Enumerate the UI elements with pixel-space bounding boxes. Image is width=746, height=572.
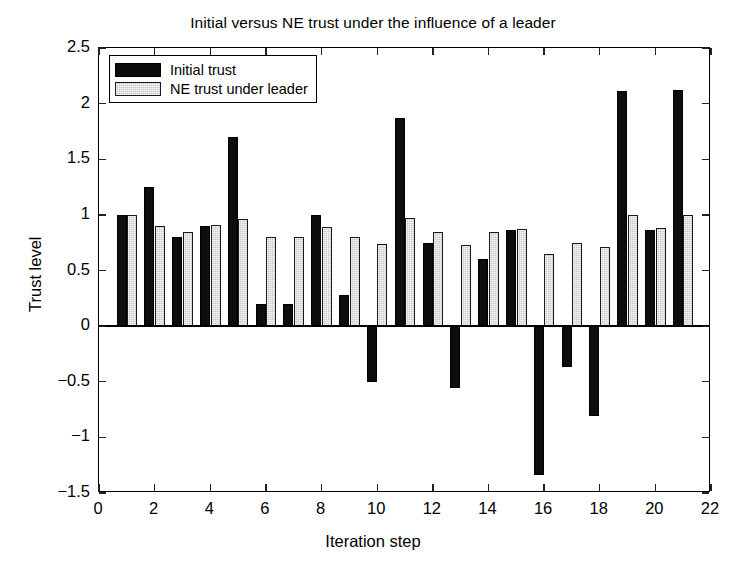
legend: Initial trust NE trust under leader bbox=[109, 55, 317, 103]
figure: Initial versus NE trust under the influe… bbox=[0, 0, 746, 572]
x-tick bbox=[543, 484, 544, 491]
bars-layer bbox=[99, 48, 709, 491]
chart-title: Initial versus NE trust under the influe… bbox=[0, 14, 746, 32]
legend-swatch-ne-trust bbox=[115, 82, 161, 96]
y-tick-label: −1 bbox=[28, 426, 90, 445]
bar-initial-trust-step-20 bbox=[645, 230, 655, 326]
bar-initial-trust-step-1 bbox=[117, 215, 127, 326]
bar-initial-trust-step-16 bbox=[534, 326, 544, 475]
bar-ne-trust-step-21 bbox=[683, 215, 693, 326]
y-tick bbox=[99, 214, 106, 215]
bar-initial-trust-step-14 bbox=[478, 259, 488, 326]
x-tick bbox=[98, 48, 99, 55]
x-tick-label: 16 bbox=[523, 499, 563, 518]
x-tick bbox=[265, 484, 266, 491]
x-tick-label: 18 bbox=[579, 499, 619, 518]
bar-initial-trust-step-6 bbox=[256, 304, 266, 326]
bar-ne-trust-step-17 bbox=[572, 243, 582, 326]
x-tick bbox=[543, 48, 544, 55]
bar-ne-trust-step-4 bbox=[211, 225, 221, 326]
bar-ne-trust-step-16 bbox=[544, 254, 554, 326]
bar-initial-trust-step-21 bbox=[673, 90, 683, 326]
y-tick-label: 1 bbox=[28, 204, 90, 223]
y-tick bbox=[99, 47, 106, 48]
x-tick-label: 8 bbox=[301, 499, 341, 518]
bar-initial-trust-step-12 bbox=[423, 243, 433, 326]
y-tick bbox=[99, 270, 106, 271]
x-tick bbox=[710, 48, 711, 55]
bar-initial-trust-step-7 bbox=[283, 304, 293, 326]
plot-area: Initial trust NE trust under leader bbox=[98, 47, 710, 492]
y-tick-label: 2 bbox=[28, 93, 90, 112]
bar-initial-trust-step-15 bbox=[506, 230, 516, 326]
x-tick-label: 22 bbox=[690, 499, 730, 518]
bar-ne-trust-step-1 bbox=[127, 215, 137, 326]
y-tick bbox=[702, 214, 709, 215]
bar-initial-trust-step-9 bbox=[339, 295, 349, 326]
bar-ne-trust-step-7 bbox=[294, 237, 304, 326]
x-tick bbox=[599, 484, 600, 491]
x-tick-label: 4 bbox=[189, 499, 229, 518]
x-axis-title: Iteration step bbox=[0, 532, 746, 551]
y-tick bbox=[99, 437, 106, 438]
x-tick bbox=[154, 48, 155, 55]
bar-initial-trust-step-4 bbox=[200, 226, 210, 326]
y-tick bbox=[702, 381, 709, 382]
y-tick bbox=[99, 159, 106, 160]
x-tick bbox=[321, 48, 322, 55]
bar-ne-trust-step-6 bbox=[266, 237, 276, 326]
bar-ne-trust-step-9 bbox=[350, 237, 360, 326]
x-tick bbox=[377, 484, 378, 491]
bar-ne-trust-step-11 bbox=[405, 218, 415, 326]
x-tick-label: 0 bbox=[78, 499, 118, 518]
y-tick bbox=[702, 47, 709, 48]
legend-label-ne-trust: NE trust under leader bbox=[170, 81, 308, 97]
x-tick bbox=[321, 484, 322, 491]
bar-ne-trust-step-3 bbox=[183, 232, 193, 327]
y-tick bbox=[99, 326, 106, 327]
legend-item: Initial trust bbox=[115, 60, 308, 79]
y-tick bbox=[702, 492, 709, 493]
y-tick bbox=[99, 381, 106, 382]
x-tick bbox=[265, 48, 266, 55]
legend-label-initial-trust: Initial trust bbox=[170, 62, 236, 78]
y-tick-label: 1.5 bbox=[28, 148, 90, 167]
x-tick-label: 2 bbox=[134, 499, 174, 518]
bar-initial-trust-step-10 bbox=[367, 326, 377, 382]
y-tick bbox=[99, 492, 106, 493]
x-tick bbox=[655, 48, 656, 55]
bar-initial-trust-step-3 bbox=[172, 237, 182, 326]
y-tick-label: 0.5 bbox=[28, 260, 90, 279]
zero-line bbox=[99, 325, 709, 326]
y-tick bbox=[702, 326, 709, 327]
bar-initial-trust-step-19 bbox=[617, 91, 627, 326]
y-tick-label: 0 bbox=[28, 315, 90, 334]
y-tick-label: −0.5 bbox=[28, 371, 90, 390]
bar-ne-trust-step-20 bbox=[656, 228, 666, 326]
x-tick-label: 14 bbox=[467, 499, 507, 518]
bar-initial-trust-step-13 bbox=[450, 326, 460, 388]
x-tick bbox=[710, 484, 711, 491]
bar-initial-trust-step-17 bbox=[562, 326, 572, 367]
bar-initial-trust-step-18 bbox=[589, 326, 599, 416]
x-tick bbox=[98, 484, 99, 491]
x-tick bbox=[655, 484, 656, 491]
x-tick-label: 20 bbox=[634, 499, 674, 518]
bar-initial-trust-step-8 bbox=[311, 215, 321, 326]
bar-ne-trust-step-13 bbox=[461, 245, 471, 326]
bar-ne-trust-step-14 bbox=[489, 232, 499, 327]
y-tick bbox=[702, 159, 709, 160]
bar-ne-trust-step-10 bbox=[377, 244, 387, 326]
y-tick-label: 2.5 bbox=[28, 37, 90, 56]
bar-ne-trust-step-5 bbox=[238, 219, 248, 326]
bar-ne-trust-step-19 bbox=[628, 215, 638, 326]
x-tick bbox=[154, 484, 155, 491]
bar-ne-trust-step-12 bbox=[433, 232, 443, 327]
legend-item: NE trust under leader bbox=[115, 79, 308, 98]
x-tick bbox=[599, 48, 600, 55]
x-tick bbox=[210, 484, 211, 491]
y-tick bbox=[99, 103, 106, 104]
bar-initial-trust-step-11 bbox=[395, 118, 405, 326]
x-tick bbox=[432, 48, 433, 55]
x-tick bbox=[488, 48, 489, 55]
